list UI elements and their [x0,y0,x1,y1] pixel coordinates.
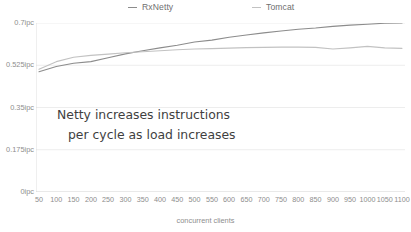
series-lines [39,23,402,72]
x-tick-label: 50 [35,195,43,204]
x-tick-label: 700 [258,195,270,204]
x-tick-label: 200 [85,195,97,204]
x-tick-label: 600 [223,195,235,204]
x-tick-label: 350 [137,195,149,204]
legend-line-marker-icon [128,7,137,8]
chart-annotation: Netty increases instructions per cycle a… [57,105,287,145]
x-tick-label: 1050 [377,195,393,204]
series-line-tomcat [39,46,402,69]
legend-item-rxnetty[interactable]: RxNetty [128,2,173,12]
y-tick-label: 0.35ipc [0,104,34,112]
annotation-line-2: per cycle as load increases [57,125,287,145]
chart-legend: RxNetty Tomcat [0,0,411,18]
x-tick-label: 150 [68,195,80,204]
y-tick-label: 0.525ipc [0,61,34,69]
legend-label-rxnetty: RxNetty [142,2,173,12]
x-tick-label: 400 [154,195,166,204]
x-tick-label: 750 [275,195,287,204]
y-axis-tick-labels: 0.7ipc0.525ipc0.35ipc0.175ipc0ipc [0,0,34,232]
x-tick-label: 850 [310,195,322,204]
y-tick-label: 0ipc [0,188,34,196]
x-tick-label: 900 [327,195,339,204]
x-tick-label: 1100 [394,195,409,204]
x-tick-label: 650 [240,195,252,204]
x-tick-label: 950 [344,195,356,204]
x-tick-label: 500 [189,195,201,204]
x-tick-label: 100 [50,195,62,204]
legend-line-marker-icon [252,7,261,8]
legend-label-tomcat: Tomcat [266,2,294,12]
x-tick-label: 1000 [359,195,375,204]
annotation-line-1: Netty increases instructions [57,105,287,125]
x-axis-title: concurrent clients [0,216,411,225]
x-tick-label: 550 [206,195,218,204]
ipc-line-chart: RxNetty Tomcat 0.7ipc0.525ipc0.35ipc0.17… [0,0,411,232]
legend-item-tomcat[interactable]: Tomcat [252,2,294,12]
x-tick-label: 300 [119,195,131,204]
x-tick-label: 450 [171,195,183,204]
x-tick-label: 250 [102,195,114,204]
y-tick-label: 0.175ipc [0,146,34,154]
y-tick-label: 0.7ipc [0,19,34,27]
x-axis-tick-labels: 5010015020025030035040045050055060065070… [36,195,411,207]
x-tick-label: 800 [292,195,304,204]
series-line-rxnetty [39,23,402,72]
